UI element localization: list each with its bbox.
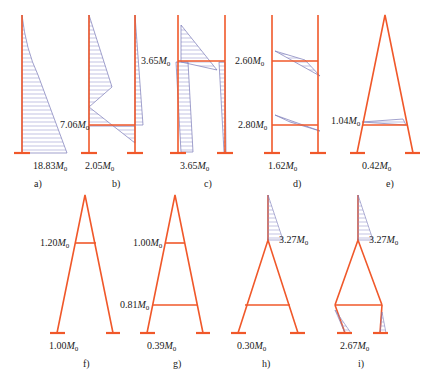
label-f-beam: 1.20M0 [40,237,69,250]
caption-g: g) [173,358,181,369]
caption-c: c) [204,178,212,189]
label-e-beam: 1.04M0 [331,115,360,128]
label-i-apex: 3.27M0 [369,234,398,247]
label-b-beam: 7.06M0 [60,119,89,132]
label-d-lower: 2.80M0 [238,119,267,132]
label-h-apex: 3.27M0 [279,234,308,247]
label-e-base: 0.42M0 [362,160,391,173]
caption-e: e) [386,178,394,189]
label-c-beam: 3.65M0 [141,55,170,68]
label-f-base: 1.00M0 [49,340,78,353]
caption-i: i) [358,358,364,369]
moment-diagrams [0,0,433,381]
label-g-lower: 0.81M0 [120,299,149,312]
label-d-base: 1.62M0 [268,160,297,173]
caption-h: h) [262,358,270,369]
caption-a: a) [34,178,42,189]
label-d-upper: 2.60M0 [235,55,264,68]
label-a-base: 18.83M0 [33,160,67,173]
label-g-base: 0.39M0 [147,340,176,353]
label-b-base: 2.05M0 [85,160,114,173]
label-i-base: 2.67M0 [340,340,369,353]
label-h-base: 0.30M0 [237,340,266,353]
label-c-base: 3.65M0 [180,160,209,173]
caption-d: d) [293,178,301,189]
caption-b: b) [112,178,120,189]
moment-area-a [22,15,67,153]
caption-f: f) [83,358,90,369]
label-g-upper: 1.00M0 [133,237,162,250]
